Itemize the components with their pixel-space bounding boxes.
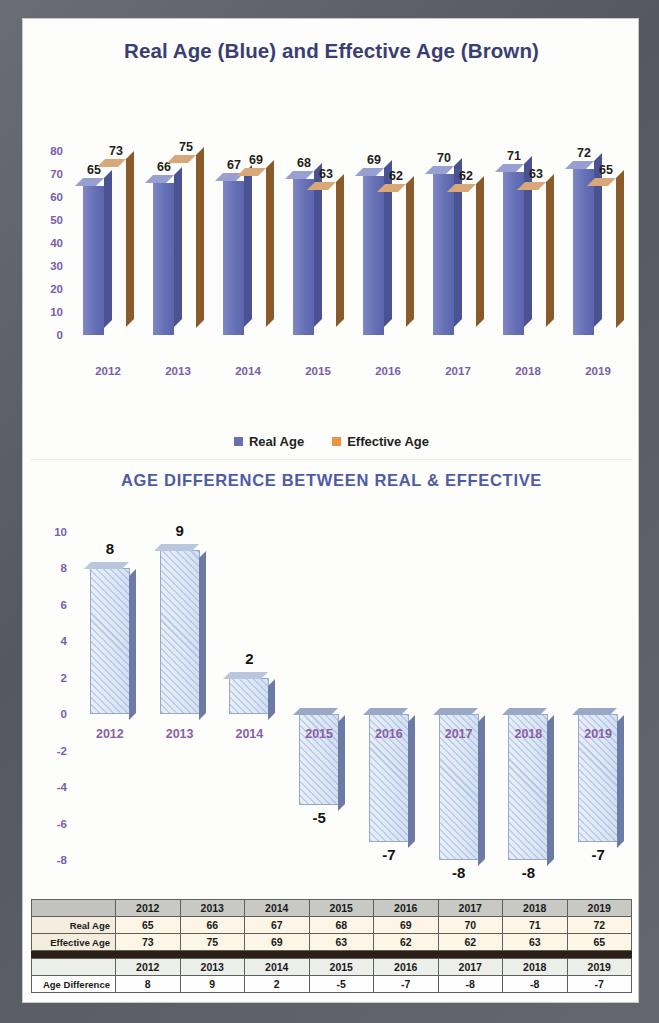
chart2-x-tick: 2016 [361,727,417,741]
chart2-y-axis: -8-6-4-20246810 [27,514,67,874]
document-page: Real Age (Blue) and Effective Age (Brown… [22,18,639,1003]
table-cell: -8 [503,976,568,993]
chart1-x-tick: 2019 [567,365,629,377]
bar-top-face [433,708,478,715]
chart1-bar-group: 71632018 [501,139,571,349]
bar-top-face [84,562,129,569]
bar-side-face [129,569,136,720]
table-column-header: 2014 [245,959,310,976]
table-column-header: 2015 [309,959,374,976]
table-column-header: 2017 [438,900,503,917]
chart1-x-tick: 2015 [287,365,349,377]
table-cell: 69 [245,934,310,951]
chart1-bar-real-age [153,183,174,335]
bar-front-face [595,186,616,336]
table-cell: 65 [116,917,181,934]
legend-label: Real Age [249,434,304,449]
chart2-data-label: -8 [505,864,551,881]
chart1-data-label: 71 [499,149,529,163]
bar-front-face [153,183,174,335]
bar-side-face [199,551,206,720]
chart2-y-tick: 4 [37,635,67,647]
bar-top-face [223,672,268,679]
chart1-bar-effective-age [315,190,336,335]
chart1-y-tick: 60 [37,191,63,203]
table-cell: -5 [309,976,374,993]
bar-top-face [293,708,338,715]
table-cell: 8 [116,976,181,993]
chart2-bar [229,678,269,714]
section-divider [31,459,632,460]
chart1-y-tick: 40 [37,237,63,249]
table-cell: 66 [180,917,245,934]
chart2-title: AGE DIFFERENCE BETWEEN REAL & EFFECTIVE [23,471,639,490]
table-cell: 2 [245,976,310,993]
bar-side-face [268,679,275,720]
table-cell: 65 [567,934,632,951]
chart1-bar-effective-age [385,192,406,335]
table-row: Effective Age7375696362626365 [32,934,632,951]
chart2-y-tick: 8 [37,562,67,574]
chart1-legend: Real AgeEffective Age [23,434,639,449]
table-cell: 62 [374,934,439,951]
chart1-bar-group: 65732012 [81,139,151,349]
chart2-y-tick: -8 [37,854,67,866]
bar-top-face [154,544,199,551]
table-cell: 68 [309,917,374,934]
table-cell: 75 [180,934,245,951]
table-cell: 62 [438,934,503,951]
chart2-y-tick: -2 [37,745,67,757]
bar-front-face [105,167,126,335]
chart2-data-label: -8 [436,864,482,881]
bar-top-face [97,159,126,167]
table-cell: 72 [567,917,632,934]
bar-front-face [175,163,196,336]
table-cell: 67 [245,917,310,934]
chart1-bar-real-age [83,186,104,336]
chart2-bar [90,568,130,714]
table-cell: 63 [503,934,568,951]
chart1-data-label: 62 [381,169,411,183]
table-corner-cell [32,959,116,976]
bar-side-face [126,151,134,327]
chart1-bar-group: 68632015 [291,139,361,349]
chart1-bar-real-age [223,181,244,335]
chart1-x-tick: 2013 [147,365,209,377]
bar-front-face [363,176,384,335]
chart2-x-tick: 2015 [291,727,347,741]
chart1-bar-effective-age [525,190,546,335]
chart1-x-tick: 2018 [497,365,559,377]
chart2-data-label: 2 [226,650,272,667]
table-cell: 9 [180,976,245,993]
legend-swatch [332,437,341,446]
chart1-y-axis: 01020304050607080 [29,139,63,349]
chart2-x-tick: 2019 [570,727,626,741]
table-column-header: 2012 [116,959,181,976]
table-cell: 63 [309,934,374,951]
table-column-header: 2019 [567,959,632,976]
chart1-data-label: 63 [311,167,341,181]
chart2-y-tick: -4 [37,781,67,793]
bar-top-face [502,708,547,715]
chart1-bar-effective-age [595,186,616,336]
scanned-page-frame: Real Age (Blue) and Effective Age (Brown… [0,0,659,1023]
chart2-x-tick: 2017 [431,727,487,741]
chart1-y-tick: 20 [37,283,63,295]
bar-front-face [503,172,524,335]
bar-side-face [196,147,204,328]
chart1-title: Real Age (Blue) and Effective Age (Brown… [23,39,639,63]
table-column-header: 2018 [503,959,568,976]
chart1-x-tick: 2014 [217,365,279,377]
table-column-header: 2012 [116,900,181,917]
table-cell: 70 [438,917,503,934]
chart1-data-label: 75 [171,140,201,154]
bar-front-face [83,186,104,336]
chart1-plot-area: 6573201266752013676920146863201569622016… [73,139,633,349]
table-column-header: 2016 [374,900,439,917]
table-column-header: 2017 [438,959,503,976]
chart1-data-label: 69 [359,153,389,167]
table-age-difference: 20122013201420152016201720182019Age Diff… [31,958,632,993]
chart1-bar-real-age [433,174,454,335]
legend-item: Effective Age [332,434,429,449]
chart2-y-tick: -6 [37,818,67,830]
